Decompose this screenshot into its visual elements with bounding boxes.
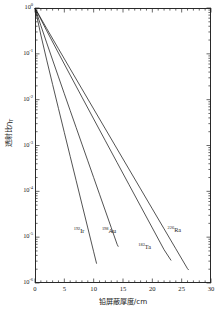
curve-ir-192 <box>35 8 97 264</box>
y-axis-title-main: 透射比η <box>4 122 13 148</box>
series-label-ir-192: 192Ir <box>74 228 85 234</box>
y-axis-title-sub: T <box>8 119 14 122</box>
series-label-ta-182: 182Ta <box>138 244 151 250</box>
curve-ta-182 <box>35 8 171 260</box>
x-tick-label: 0 <box>25 286 45 293</box>
series-label-ra-226: 226Ra <box>168 227 181 233</box>
x-tick-label: 15 <box>113 286 133 293</box>
curve-au-198 <box>35 8 118 247</box>
x-tick-label: 20 <box>142 286 162 293</box>
x-axis-title: 铅屏蔽厚度/cm <box>35 298 211 306</box>
tick-marks <box>35 8 211 283</box>
chart-root: 10010-110-210-310-410-510-6 051015202530… <box>0 0 222 322</box>
x-tick-label: 5 <box>54 286 74 293</box>
y-axis-title: 透射比ηT <box>3 101 13 165</box>
x-tick-label: 10 <box>84 286 104 293</box>
x-tick-label: 30 <box>201 286 221 293</box>
x-tick-label: 25 <box>172 286 192 293</box>
series-label-au-198: 198Au <box>102 228 116 234</box>
chart-canvas <box>0 0 222 322</box>
